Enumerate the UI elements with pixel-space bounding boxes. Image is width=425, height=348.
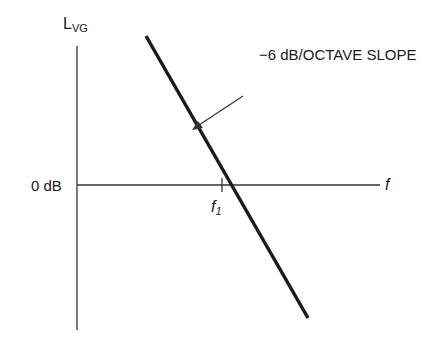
f1-label: f1 xyxy=(211,199,222,217)
slope-line xyxy=(146,36,308,318)
zero-db-label: 0 dB xyxy=(31,178,62,193)
f1-label-sub: 1 xyxy=(215,205,221,217)
y-axis-label-main: L xyxy=(63,15,72,32)
slope-annotation: −6 dB/OCTAVE SLOPE xyxy=(259,47,416,62)
annotation-arrow xyxy=(196,96,243,127)
y-axis-label-sub: VG xyxy=(72,22,88,34)
x-axis-label: f xyxy=(385,177,389,193)
y-axis-label: LVG xyxy=(63,16,88,34)
